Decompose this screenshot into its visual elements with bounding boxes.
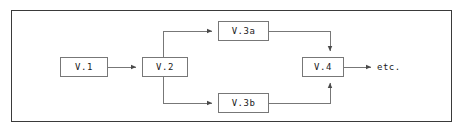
edge-v3b-to-v4	[269, 83, 330, 103]
label-etc: etc.	[377, 63, 401, 72]
edge-v3a-to-v4	[269, 31, 330, 51]
node-v1[interactable]: V.1	[60, 57, 108, 77]
node-v3b[interactable]: V.3b	[218, 93, 269, 113]
diagram-canvas: V.1 V.2 V.3a V.3b V.4 etc.	[0, 0, 464, 130]
node-v2[interactable]: V.2	[142, 57, 188, 77]
edge-v2-to-v3b	[163, 77, 212, 103]
node-v4[interactable]: V.4	[302, 57, 344, 77]
edge-v2-to-v3a	[163, 31, 212, 57]
node-v3a[interactable]: V.3a	[218, 21, 269, 41]
